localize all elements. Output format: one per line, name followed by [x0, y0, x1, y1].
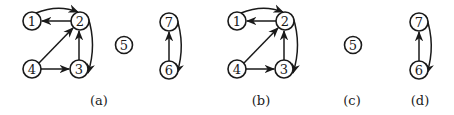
svg-text:7: 7: [415, 15, 423, 30]
svg-text:3: 3: [75, 62, 83, 77]
svg-text:6: 6: [415, 63, 423, 78]
svg-text:4: 4: [233, 62, 241, 77]
node-7: 7: [160, 13, 178, 31]
svg-text:4: 4: [28, 62, 36, 77]
svg-text:5: 5: [349, 38, 357, 53]
node-b-4: 4: [228, 60, 246, 78]
node-b-1: 1: [228, 12, 246, 30]
panel-b-label: (b): [252, 93, 270, 108]
svg-text:2: 2: [281, 14, 289, 29]
node-3: 3: [70, 60, 88, 78]
node-d-7: 7: [410, 13, 428, 31]
svg-text:5: 5: [120, 38, 128, 53]
node-b-3: 3: [275, 60, 293, 78]
edge-1-2: [36, 8, 78, 13]
node-b-2: 2: [276, 12, 294, 30]
panel-d-label: (d): [411, 93, 429, 108]
edge-4-2: [39, 28, 73, 63]
svg-text:2: 2: [76, 14, 84, 29]
node-d-6: 6: [410, 61, 428, 79]
edge-b-1-2: [241, 8, 283, 13]
panel-c-label: (c): [343, 93, 360, 108]
svg-text:1: 1: [233, 14, 241, 29]
svg-text:1: 1: [28, 14, 36, 29]
edge-b-4-2: [244, 28, 278, 63]
node-6: 6: [160, 61, 178, 79]
graph-figure: 1 2 4 3 5 7 6 (a) 1 2 4 3 (b) 5 (c) 7 6 …: [0, 0, 454, 115]
node-5: 5: [116, 37, 133, 54]
svg-text:3: 3: [280, 62, 288, 77]
node-1: 1: [23, 12, 41, 30]
node-c-5: 5: [345, 37, 362, 54]
panel-a-edges: [36, 8, 181, 73]
svg-text:7: 7: [165, 15, 173, 30]
node-4: 4: [23, 60, 41, 78]
node-2: 2: [71, 12, 89, 30]
panel-a-label: (a): [90, 93, 108, 108]
svg-text:6: 6: [165, 63, 173, 78]
